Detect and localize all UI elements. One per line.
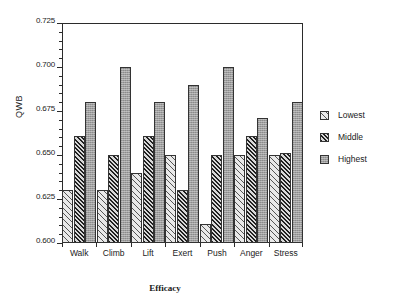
legend-swatch-icon — [320, 133, 329, 142]
bars-layer — [62, 23, 303, 243]
bar — [269, 155, 280, 243]
bar — [211, 155, 222, 243]
bar-chart-figure: 0.6000.6250.6500.6750.7000.725 QWB WalkC… — [0, 0, 394, 307]
bar — [223, 67, 234, 243]
x-tick-label: Lift — [142, 248, 153, 258]
x-axis-tick — [62, 243, 63, 247]
bar — [85, 102, 96, 243]
x-axis-title: Efficacy — [0, 283, 330, 293]
bar — [143, 136, 154, 243]
x-axis-tick — [96, 243, 97, 247]
y-axis: 0.6000.6250.6500.6750.7000.725 — [0, 0, 62, 307]
x-tick-label: Anger — [240, 248, 263, 258]
bar — [292, 102, 303, 243]
bar — [257, 118, 268, 243]
x-axis-tick — [234, 243, 235, 247]
bar-group — [234, 23, 268, 243]
bar — [200, 224, 211, 243]
x-tick-label: Climb — [103, 248, 125, 258]
bar-group — [131, 23, 165, 243]
bar-group — [96, 23, 130, 243]
legend: LowestMiddleHighest — [320, 104, 392, 170]
y-tick-label: 0.725 — [36, 16, 55, 25]
bar-group — [165, 23, 199, 243]
bar — [131, 173, 142, 243]
bar — [62, 190, 73, 243]
y-axis-title: QWB — [14, 95, 24, 118]
bar — [246, 136, 257, 243]
legend-swatch-icon — [320, 155, 329, 164]
y-tick-label: 0.600 — [36, 236, 55, 245]
legend-label: Middle — [338, 132, 363, 142]
bar — [108, 155, 119, 243]
bar — [154, 102, 165, 243]
x-axis-tick — [131, 243, 132, 247]
bar — [177, 190, 188, 243]
legend-label: Lowest — [338, 110, 365, 120]
x-axis-tick — [200, 243, 201, 247]
x-tick-label: Push — [207, 248, 226, 258]
y-tick-label: 0.650 — [36, 148, 55, 157]
legend-label: Highest — [338, 154, 367, 164]
bar — [74, 136, 85, 243]
legend-item[interactable]: Middle — [320, 126, 392, 148]
x-tick-label: Walk — [70, 248, 89, 258]
bar — [97, 190, 108, 243]
bar-group — [62, 23, 96, 243]
y-tick-label: 0.625 — [36, 192, 55, 201]
x-axis-tick — [269, 243, 270, 247]
bar — [165, 155, 176, 243]
x-axis-tick-labels: WalkClimbLiftExertPushAngerStress — [62, 248, 303, 262]
bar-group — [269, 23, 303, 243]
legend-item[interactable]: Highest — [320, 148, 392, 170]
x-axis-tick — [302, 243, 303, 247]
bar — [188, 85, 199, 243]
y-tick-label: 0.700 — [36, 60, 55, 69]
bar — [120, 67, 131, 243]
bar-group — [200, 23, 234, 243]
x-tick-label: Exert — [173, 248, 193, 258]
bar — [280, 153, 291, 243]
bar — [234, 155, 245, 243]
x-axis-tick — [165, 243, 166, 247]
y-tick-label: 0.675 — [36, 104, 55, 113]
x-tick-label: Stress — [274, 248, 298, 258]
legend-swatch-icon — [320, 111, 329, 120]
legend-item[interactable]: Lowest — [320, 104, 392, 126]
